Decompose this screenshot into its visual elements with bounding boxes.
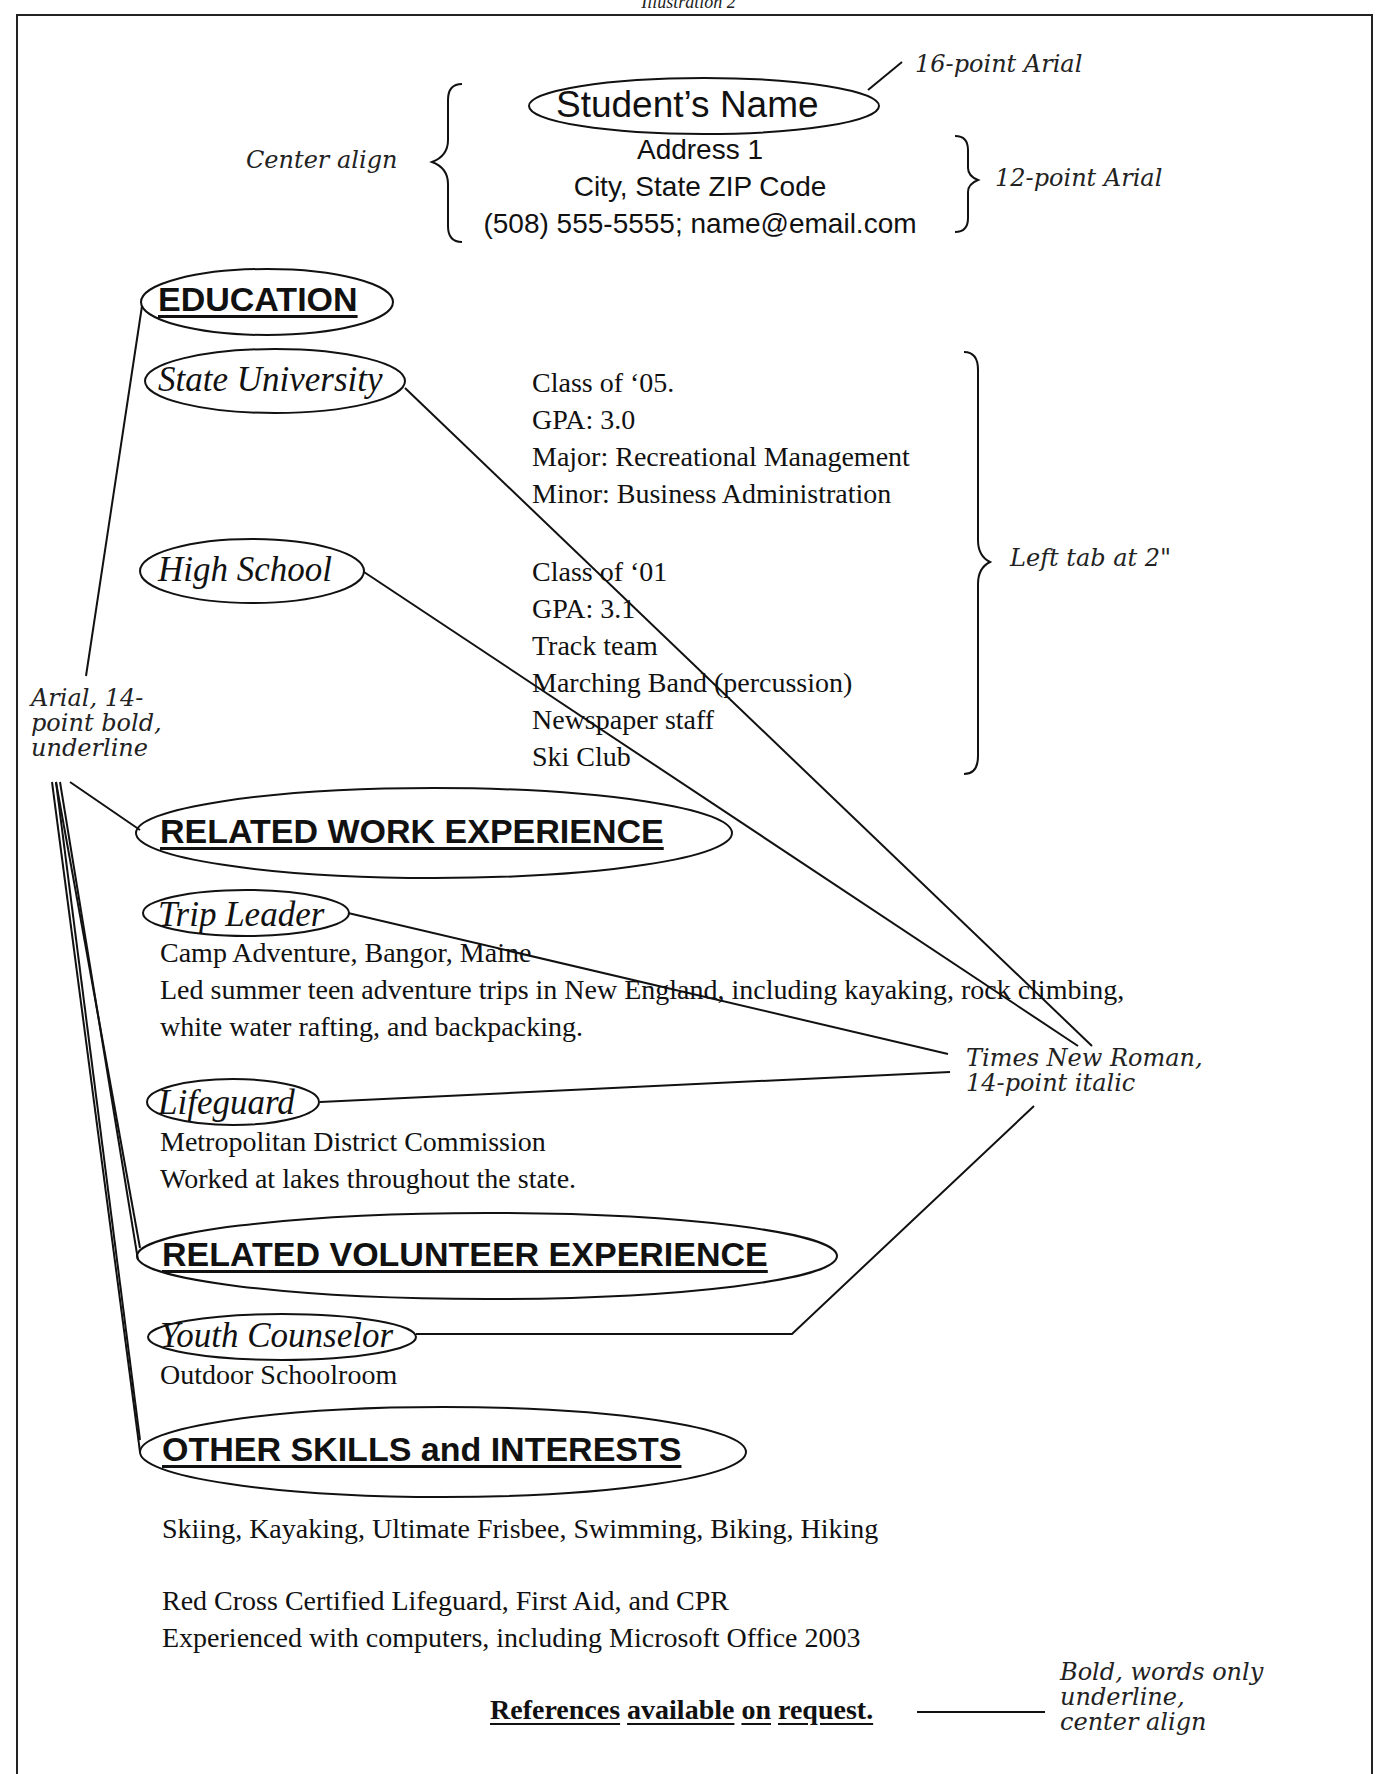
school-high-school: High School (158, 550, 332, 590)
references-word: References (490, 1694, 620, 1725)
detail-line: Major: Recreational Management (532, 438, 910, 475)
address-line-2: City, State ZIP Code (400, 168, 1000, 205)
high-school-details: Class of ‘01 GPA: 3.1 Track team Marchin… (532, 553, 852, 775)
address-block: Address 1 City, State ZIP Code (508) 555… (400, 131, 1000, 242)
detail-line: white water rafting, and backpacking. (160, 1008, 1124, 1045)
annotation-line: 14-point italic (966, 1071, 1203, 1096)
skills-heading: OTHER SKILLS and INTERESTS (162, 1430, 681, 1469)
detail-line: Marching Band (percussion) (532, 664, 852, 701)
annotation-center-align: Center align (246, 148, 397, 173)
annotation-line: Times New Roman, (966, 1046, 1203, 1071)
detail-line: Class of ‘05. (532, 364, 910, 401)
detail-line: Metropolitan District Commission (160, 1123, 576, 1160)
annotation-left-tab: Left tab at 2" (1010, 546, 1171, 571)
detail-line: Worked at lakes throughout the state. (160, 1160, 576, 1197)
address-line-3: (508) 555-5555; name@email.com (400, 205, 1000, 242)
job-title-youth-counselor: Youth Counselor (160, 1316, 393, 1356)
detail-line: Minor: Business Administration (532, 475, 910, 512)
annotation-line: underline, (1060, 1685, 1263, 1710)
skills-line-1: Skiing, Kayaking, Ultimate Frisbee, Swim… (162, 1510, 878, 1547)
annotation-address-font: 12-point Arial (995, 166, 1162, 191)
references-word: request. (778, 1694, 873, 1725)
annotation-heading-font: Arial, 14- point bold, underline (31, 686, 162, 762)
references-word: available (627, 1694, 734, 1725)
annotation-name-font: 16-point Arial (915, 52, 1082, 77)
detail-line: GPA: 3.0 (532, 401, 910, 438)
address-line-1: Address 1 (400, 131, 1000, 168)
illustration-caption: Illustration 2 (0, 0, 1377, 13)
references-word: on (741, 1694, 771, 1725)
annotation-line: center align (1060, 1710, 1263, 1735)
detail-line: Camp Adventure, Bangor, Maine (160, 934, 1124, 971)
annotation-references-format: Bold, words only underline, center align (1060, 1660, 1263, 1736)
annotation-subheading-font: Times New Roman, 14-point italic (966, 1046, 1203, 1096)
annotation-line: Bold, words only (1060, 1660, 1263, 1685)
job-title-lifeguard: Lifeguard (158, 1083, 295, 1123)
student-name: Student’s Name (556, 84, 819, 126)
trip-leader-details: Camp Adventure, Bangor, Maine Led summer… (160, 934, 1124, 1045)
detail-line: Ski Club (532, 738, 852, 775)
detail-line: Led summer teen adventure trips in New E… (160, 971, 1124, 1008)
volunteer-heading: RELATED VOLUNTEER EXPERIENCE (162, 1235, 768, 1274)
annotation-line: underline (31, 736, 162, 761)
skills-line-3: Experienced with computers, including Mi… (162, 1619, 861, 1656)
state-university-details: Class of ‘05. GPA: 3.0 Major: Recreation… (532, 364, 910, 512)
references-line: References available on request. (490, 1694, 873, 1726)
skills-line-2: Red Cross Certified Lifeguard, First Aid… (162, 1582, 729, 1619)
job-title-trip-leader: Trip Leader (158, 895, 324, 935)
detail-line: Class of ‘01 (532, 553, 852, 590)
detail-line: Outdoor Schoolroom (160, 1356, 397, 1393)
lifeguard-details: Metropolitan District Commission Worked … (160, 1123, 576, 1197)
annotation-line: Arial, 14- (31, 686, 162, 711)
detail-line: GPA: 3.1 (532, 590, 852, 627)
detail-line: Track team (532, 627, 852, 664)
detail-line: Newspaper staff (532, 701, 852, 738)
education-heading: EDUCATION (158, 280, 358, 319)
annotation-line: point bold, (31, 711, 162, 736)
work-heading: RELATED WORK EXPERIENCE (160, 812, 664, 851)
school-state-university: State University (158, 360, 383, 400)
youth-counselor-details: Outdoor Schoolroom (160, 1356, 397, 1393)
